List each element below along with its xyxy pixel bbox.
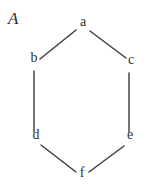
node-label-d: d [28,128,44,142]
node-label-f: f [74,166,90,180]
node-label-c: c [123,53,139,67]
hasse-diagram-figure: A abcdef [0,0,150,186]
diagram-edge-f-e [89,146,124,172]
diagram-edge-b-a [40,30,76,59]
node-label-b: b [26,51,42,65]
node-label-a: a [75,15,91,29]
diagram-edge-d-f [41,145,76,172]
node-label-e: e [122,128,138,142]
diagram-edge-a-c [90,31,126,58]
